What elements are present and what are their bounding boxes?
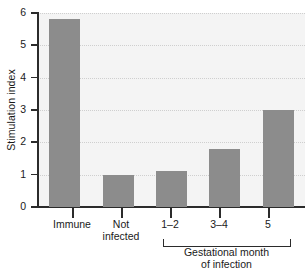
y-tick-6: [31, 12, 38, 14]
x-tick-1: [121, 208, 123, 218]
y-tick-4: [31, 77, 38, 79]
x-tick-2: [170, 208, 172, 218]
y-tick-label-1: 1: [0, 169, 26, 179]
y-tick-label-4: 4: [0, 72, 26, 82]
y-tick-label-0: 0: [0, 201, 26, 211]
bar-series: [38, 13, 305, 207]
x-label-month-5-line1: 5: [231, 219, 305, 231]
x-label-month-5: 5: [231, 219, 305, 231]
y-tick-5: [31, 44, 38, 46]
y-tick-label-3: 3: [0, 104, 26, 114]
y-tick-0: [31, 206, 38, 208]
x-tick-4: [268, 208, 270, 218]
y-tick-label-2: 2: [0, 136, 26, 146]
y-tick-1: [31, 174, 38, 176]
y-tick-label-6: 6: [0, 7, 26, 17]
x-tick-3: [219, 208, 221, 218]
bar-chart-figure: Stimulation index 6 5 4 3 2 1 0 Immune: [0, 0, 305, 270]
bar-month-5: [263, 110, 294, 207]
gestational-month-bracket-label: Gestational month of infection: [155, 247, 298, 270]
bar-month-3-4: [209, 149, 240, 207]
bracket-label-line2: of infection: [155, 259, 298, 270]
y-tick-2: [31, 141, 38, 143]
bar-immune: [49, 19, 80, 207]
y-tick-3: [31, 109, 38, 111]
x-tick-0: [72, 208, 74, 218]
x-label-not-infected-line2: infected: [84, 231, 158, 243]
y-tick-label-5: 5: [0, 39, 26, 49]
bar-month-1-2: [156, 171, 187, 207]
bracket-label-line1: Gestational month: [155, 247, 298, 259]
bar-not-infected: [103, 175, 134, 207]
